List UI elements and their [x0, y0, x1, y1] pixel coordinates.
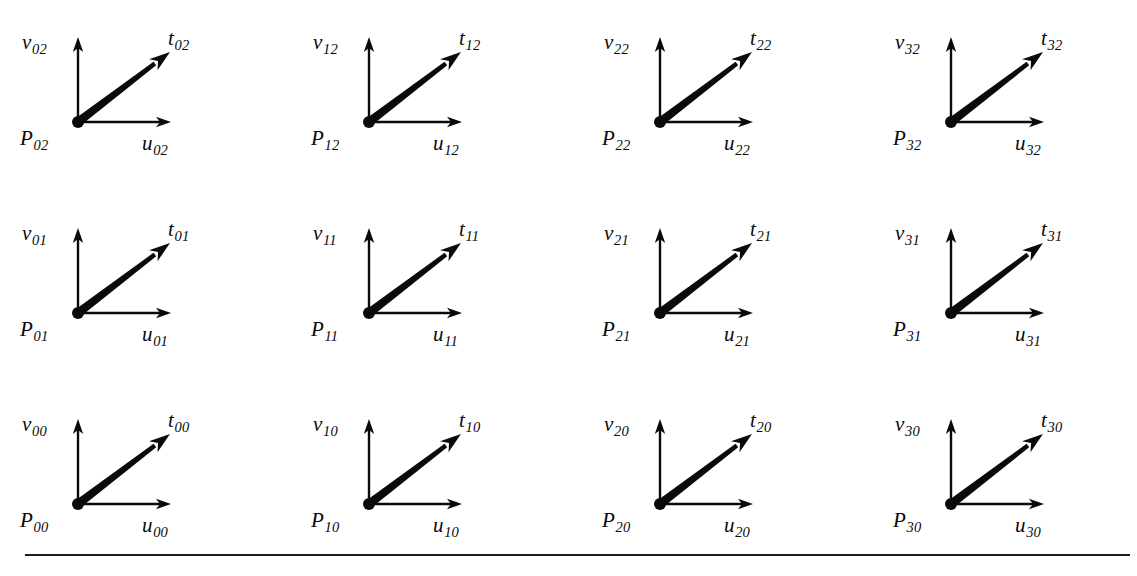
origin-point-dot-02 [72, 116, 84, 128]
frame-axes-01 [20, 211, 230, 361]
t-vector-label-02: t02 [168, 28, 189, 52]
u-axis-label-20: u20 [724, 515, 750, 539]
t-vector-label-subscript: 12 [465, 37, 480, 53]
t-vector-label-30: t30 [1041, 410, 1062, 434]
horizontal-rule [25, 554, 1130, 556]
t-vector-shaft-12 [366, 62, 447, 126]
t-vector-label-subscript: 32 [1047, 37, 1062, 53]
point-label-subscript: 22 [615, 137, 630, 153]
u-axis-label-10: u10 [433, 515, 459, 539]
origin-point-dot-20 [654, 498, 666, 510]
v-axis-label-symbol: v [313, 30, 323, 54]
point-label-symbol: P [20, 508, 33, 532]
u-axis-label-subscript: 32 [1026, 142, 1041, 158]
t-vector-label-subscript: 00 [174, 419, 189, 435]
coordinate-frame-02: v02t02P02u02 [20, 20, 230, 170]
u-axis-label-symbol: u [724, 513, 735, 537]
u-axis-label-subscript: 00 [153, 524, 168, 540]
t-vector-shaft-31 [948, 253, 1029, 317]
v-axis-label-00: v00 [22, 414, 47, 438]
point-label-subscript: 00 [33, 519, 48, 535]
u-axis-label-symbol: u [1015, 322, 1026, 346]
t-vector-label-11: t11 [459, 219, 479, 243]
origin-point-dot-31 [945, 307, 957, 319]
coordinate-frame-30: v30t30P30u30 [893, 402, 1103, 552]
frame-axes-00 [20, 402, 230, 552]
t-vector-shaft-22 [657, 62, 738, 126]
v-axis-label-subscript: 20 [614, 423, 629, 439]
frame-axes-21 [602, 211, 812, 361]
point-label-symbol: P [602, 126, 615, 150]
t-vector-shaft-11 [366, 253, 447, 317]
point-label-subscript: 02 [33, 137, 48, 153]
v-axis-label-31: v31 [895, 223, 920, 247]
coordinate-frame-01: v01t01P01u01 [20, 211, 230, 361]
origin-point-dot-11 [363, 307, 375, 319]
u-axis-label-21: u21 [724, 324, 750, 348]
v-axis-label-subscript: 21 [614, 232, 629, 248]
coordinate-frame-20: v20t20P20u20 [602, 402, 812, 552]
t-vector-label-21: t21 [750, 219, 771, 243]
coordinate-frame-10: v10t10P10u10 [311, 402, 521, 552]
v-axis-label-symbol: v [313, 221, 323, 245]
t-vector-label-31: t31 [1041, 219, 1062, 243]
point-label-subscript: 31 [906, 328, 921, 344]
v-axis-label-subscript: 00 [32, 423, 47, 439]
coordinate-frame-grid: v02t02P02u02v12t12P12u12v22t22P22u22v32t… [0, 0, 1137, 576]
v-axis-label-32: v32 [895, 32, 920, 56]
point-label-30: P30 [893, 510, 921, 534]
u-axis-label-symbol: u [433, 513, 444, 537]
point-label-subscript: 20 [615, 519, 630, 535]
coordinate-frame-11: v11t11P11u11 [311, 211, 521, 361]
t-vector-shaft-32 [948, 62, 1029, 126]
t-vector-label-01: t01 [168, 219, 189, 243]
u-axis-label-subscript: 01 [153, 333, 168, 349]
u-axis-label-symbol: u [142, 322, 153, 346]
frame-axes-31 [893, 211, 1103, 361]
v-axis-label-02: v02 [22, 32, 47, 56]
v-axis-label-symbol: v [22, 30, 32, 54]
point-label-11: P11 [311, 319, 338, 343]
v-axis-label-symbol: v [604, 412, 614, 436]
origin-point-dot-32 [945, 116, 957, 128]
t-vector-shaft-01 [75, 253, 156, 317]
u-axis-label-subscript: 21 [735, 333, 750, 349]
t-vector-label-subscript: 30 [1047, 419, 1062, 435]
v-axis-label-symbol: v [604, 30, 614, 54]
v-axis-label-subscript: 02 [32, 41, 47, 57]
point-label-symbol: P [893, 126, 906, 150]
point-label-subscript: 10 [324, 519, 339, 535]
point-label-symbol: P [311, 508, 324, 532]
t-vector-label-subscript: 11 [465, 228, 479, 244]
coordinate-frame-00: v00t00P00u00 [20, 402, 230, 552]
v-axis-label-21: v21 [604, 223, 629, 247]
t-vector-shaft-02 [75, 62, 156, 126]
point-label-symbol: P [311, 317, 324, 341]
t-vector-label-subscript: 10 [465, 419, 480, 435]
t-vector-label-subscript: 02 [174, 37, 189, 53]
frame-axes-11 [311, 211, 521, 361]
point-label-subscript: 11 [324, 328, 338, 344]
u-axis-label-symbol: u [1015, 131, 1026, 155]
point-label-subscript: 12 [324, 137, 339, 153]
point-label-01: P01 [20, 319, 48, 343]
u-axis-label-subscript: 02 [153, 142, 168, 158]
u-axis-label-symbol: u [1015, 513, 1026, 537]
origin-point-dot-10 [363, 498, 375, 510]
coordinate-frame-12: v12t12P12u12 [311, 20, 521, 170]
v-axis-label-22: v22 [604, 32, 629, 56]
u-axis-label-subscript: 11 [444, 333, 458, 349]
u-axis-label-symbol: u [433, 322, 444, 346]
v-axis-label-subscript: 31 [905, 232, 920, 248]
u-axis-label-symbol: u [433, 131, 444, 155]
t-vector-shaft-30 [948, 444, 1029, 508]
point-label-32: P32 [893, 128, 921, 152]
t-vector-label-22: t22 [750, 28, 771, 52]
u-axis-label-subscript: 20 [735, 524, 750, 540]
v-axis-label-10: v10 [313, 414, 338, 438]
u-axis-label-symbol: u [724, 131, 735, 155]
point-label-subscript: 21 [615, 328, 630, 344]
u-axis-label-01: u01 [142, 324, 168, 348]
t-vector-label-subscript: 22 [756, 37, 771, 53]
frame-axes-22 [602, 20, 812, 170]
